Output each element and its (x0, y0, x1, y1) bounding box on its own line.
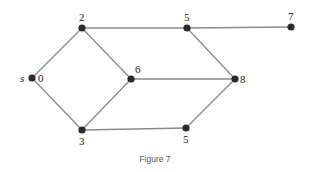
node-c (287, 23, 294, 30)
node-a (78, 24, 85, 31)
node-e (231, 75, 238, 82)
edge-g-e (186, 79, 235, 128)
label-node-8: 8 (240, 73, 246, 85)
edges (32, 27, 291, 130)
label-node-6: 6 (135, 63, 141, 75)
edge-b-e (187, 28, 235, 79)
label-s-prefix: s (20, 72, 24, 84)
label-node-7: 7 (288, 10, 294, 22)
edge-f-d (82, 79, 131, 130)
edge-b-c (187, 27, 291, 28)
label-node-5-top: 5 (184, 11, 190, 23)
label-node-s: 0 (38, 72, 44, 84)
node-g (182, 124, 189, 131)
edge-s-a (32, 28, 82, 78)
edge-a-d (82, 28, 131, 79)
node-d (127, 75, 134, 82)
label-node-2: 2 (79, 11, 85, 23)
edge-s-f (32, 78, 82, 130)
edge-f-g (82, 128, 186, 130)
label-node-3: 3 (79, 135, 85, 147)
node-b (183, 24, 190, 31)
figure-caption: Figure 7 (0, 154, 310, 164)
label-node-5-bottom: 5 (183, 133, 189, 145)
node-f (78, 126, 85, 133)
graph-diagram: s 0 2 5 7 6 8 3 5 (0, 0, 310, 172)
node-s (28, 74, 35, 81)
